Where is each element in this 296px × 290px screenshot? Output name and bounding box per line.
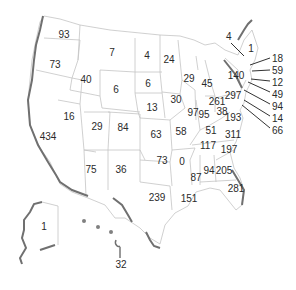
state-label-ny: 140 xyxy=(228,71,245,81)
state-label-fl: 281 xyxy=(228,184,245,194)
us-state-map: 93 73 40 7 6 434 16 29 84 75 36 4 6 13 6… xyxy=(0,0,296,290)
state-label-mn: 24 xyxy=(163,55,174,65)
state-label-sc: 197 xyxy=(221,145,238,155)
state-label-wy: 6 xyxy=(113,85,119,95)
state-label-ms: 87 xyxy=(190,173,201,183)
callout-label-ma: 59 xyxy=(272,66,283,76)
state-label-ks: 63 xyxy=(150,130,161,140)
state-label-ut: 29 xyxy=(91,122,102,132)
state-label-pa: 297 xyxy=(225,91,242,101)
state-label-sd: 6 xyxy=(145,79,151,89)
state-label-hi: 32 xyxy=(115,260,126,270)
state-label-wa: 93 xyxy=(58,30,69,40)
state-label-tn: 117 xyxy=(200,141,216,151)
state-label-nc: 311 xyxy=(225,130,241,140)
callout-label-nh: 18 xyxy=(272,54,283,64)
state-label-nm: 36 xyxy=(115,165,126,175)
state-label-il: 97 xyxy=(187,108,198,118)
state-label-co: 84 xyxy=(117,123,128,133)
state-label-ok: 73 xyxy=(156,156,167,166)
callout-label-nj: 94 xyxy=(272,102,283,112)
state-label-in: 95 xyxy=(198,110,209,120)
state-label-wi: 29 xyxy=(183,74,194,84)
state-label-az: 75 xyxy=(85,165,96,175)
state-label-ky: 51 xyxy=(205,126,216,136)
callout-label-ri: 12 xyxy=(272,78,283,88)
state-label-nd: 4 xyxy=(144,51,150,61)
callout-label-vt: 4 xyxy=(226,32,232,42)
state-label-or: 73 xyxy=(49,60,60,70)
state-label-mt: 7 xyxy=(109,48,115,58)
state-label-ar: 0 xyxy=(179,157,185,167)
state-label-ga: 205 xyxy=(216,166,233,176)
state-label-id: 40 xyxy=(80,75,91,85)
state-label-me: 1 xyxy=(248,44,254,54)
state-label-ca: 434 xyxy=(40,132,57,142)
callout-lines xyxy=(120,43,270,258)
state-label-mi: 45 xyxy=(201,79,212,89)
callout-label-md: 66 xyxy=(272,126,283,136)
state-label-al: 94 xyxy=(203,166,214,176)
state-label-mo: 58 xyxy=(175,127,186,137)
state-label-ne: 13 xyxy=(146,103,157,113)
state-label-tx: 239 xyxy=(149,193,166,203)
state-label-nv: 16 xyxy=(63,112,74,122)
state-label-wv: 38 xyxy=(216,107,227,117)
callout-label-ct: 49 xyxy=(272,90,283,100)
callout-label-de: 14 xyxy=(272,114,283,124)
state-label-ak: 1 xyxy=(41,222,47,232)
state-label-ia: 30 xyxy=(170,95,181,105)
state-label-la: 151 xyxy=(181,194,198,204)
